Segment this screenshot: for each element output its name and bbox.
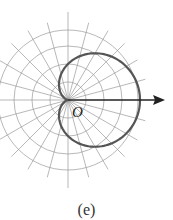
origin-label: O bbox=[72, 104, 83, 120]
polar-diagram: O bbox=[0, 0, 173, 220]
figure-caption: (e) bbox=[0, 201, 173, 219]
